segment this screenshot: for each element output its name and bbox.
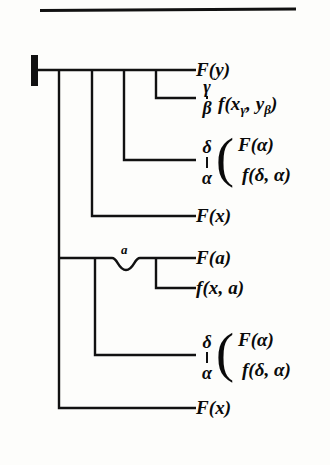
leaf-label-2-part-c: ) [271,93,277,114]
leaf-label-2: f(xγ, yβ) [218,94,277,117]
leaf-label-1: F(y) [196,60,230,79]
group-3: ( F(α) f(δ, α) [216,131,328,191]
qualifier-stack-3: δ α [197,138,217,187]
branch-leaf-5-with-arc [59,258,196,270]
qualifier-bottom-2: β [197,99,217,117]
branch-leaf-8 [59,258,196,408]
qualifier-top-7: δ [197,333,217,351]
leaf-label-8: F(x) [196,398,231,417]
leaf-label-6: f(x, ɑ) [196,278,244,297]
root-marker [31,55,38,86]
bracket-tree [0,0,210,465]
branch-leaf-6 [156,258,196,288]
qualifier-top-2: γ [197,78,217,96]
qualifier-top-3: δ [197,138,217,156]
branch-leaf-2 [156,70,196,98]
branch-leaf-4 [92,70,196,216]
arc-label: ɑ [121,243,128,256]
qualifier-bar-7 [206,352,208,363]
leaf-label-2-part-b: , y [246,93,264,114]
leaf-label-2-sub-2: β [264,102,271,117]
branch-leaf-3 [124,70,196,160]
group-paren-3: ( [216,131,234,185]
qualifier-stack-2: γ β [197,78,217,117]
leaf-label-5: F(ɑ) [196,248,231,267]
branch-leaf-7 [95,258,196,355]
qualifier-bottom-7: α [197,364,217,382]
qualifier-bottom-3: α [197,169,217,187]
group-7-line-1: F(α) [238,330,274,349]
qualifier-bar-3 [206,157,208,168]
qualifier-stack-7: δ α [197,333,217,382]
leaf-label-2-part-a: f(x [218,93,240,114]
group-3-line-1: F(α) [238,135,274,154]
figure-canvas: ɑ F(y) γ β f(xγ, yβ) δ α ( F(α) f(δ, α) … [0,0,330,465]
group-7-line-2: f(δ, α) [242,360,291,379]
group-3-line-2: f(δ, α) [242,165,291,184]
group-7: ( F(α) f(δ, α) [216,326,328,386]
group-paren-7: ( [216,326,234,380]
leaf-label-4: F(x) [196,206,231,225]
